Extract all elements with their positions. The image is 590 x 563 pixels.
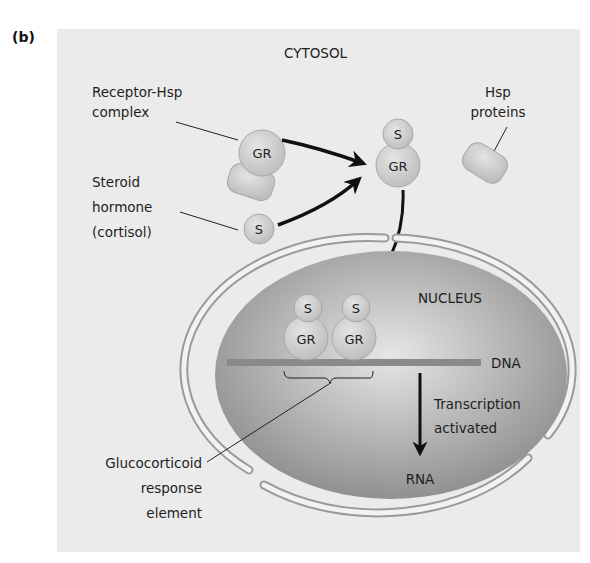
svg-text:Receptor-Hsp: Receptor-Hsp [92, 84, 182, 100]
free-steroid: S [244, 214, 274, 244]
glucocorticoid-signaling-diagram: (b) CYTOSOL Receptor-Hsp complex Steroid… [0, 0, 590, 563]
svg-text:S: S [255, 222, 263, 237]
svg-text:Hsp: Hsp [485, 84, 511, 100]
nucleus [215, 251, 567, 499]
svg-text:Transcription: Transcription [433, 396, 521, 412]
svg-text:(cortisol): (cortisol) [92, 224, 152, 240]
svg-text:activated: activated [434, 420, 497, 436]
svg-text:proteins: proteins [470, 104, 525, 120]
svg-text:Steroid: Steroid [92, 174, 140, 190]
svg-text:S: S [304, 301, 312, 316]
svg-text:GR: GR [252, 146, 271, 161]
svg-text:response: response [141, 480, 202, 496]
svg-text:S: S [352, 301, 360, 316]
panel-label: (b) [12, 29, 35, 45]
svg-text:hormone: hormone [92, 199, 152, 215]
svg-text:element: element [146, 505, 202, 521]
svg-text:S: S [394, 127, 402, 142]
svg-text:GR: GR [344, 332, 363, 347]
cytosol-label: CYTOSOL [284, 45, 348, 61]
svg-text:Glucocorticoid: Glucocorticoid [105, 455, 202, 471]
rna-label: RNA [406, 471, 435, 487]
svg-text:GR: GR [388, 159, 407, 174]
svg-text:complex: complex [92, 104, 149, 120]
nucleus-label: NUCLEUS [418, 290, 482, 306]
dna-label: DNA [491, 355, 521, 371]
svg-text:GR: GR [296, 332, 315, 347]
